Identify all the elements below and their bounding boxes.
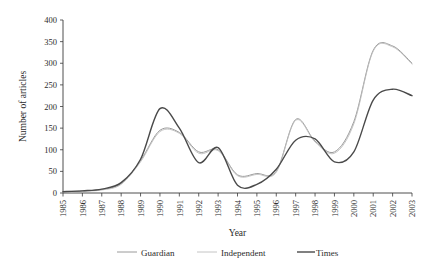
x-tick-label: 1988 bbox=[116, 200, 126, 217]
y-tick-label: 0 bbox=[53, 188, 57, 198]
y-tick-label: 300 bbox=[44, 58, 57, 68]
x-tick-label: 1997 bbox=[291, 200, 301, 217]
series-line-independent bbox=[63, 43, 412, 192]
y-tick-label: 150 bbox=[44, 123, 57, 133]
x-tick-label: 2002 bbox=[388, 200, 398, 217]
y-tick-label: 250 bbox=[44, 80, 57, 90]
y-tick-label: 50 bbox=[49, 166, 58, 176]
x-tick-label: 1993 bbox=[213, 200, 223, 217]
x-tick-label: 1990 bbox=[155, 200, 165, 217]
x-tick-label: 2003 bbox=[407, 200, 417, 217]
y-tick-label: 200 bbox=[44, 102, 57, 112]
chart-legend: GuardianIndependentTimes bbox=[117, 248, 339, 258]
legend-label-guardian: Guardian bbox=[141, 248, 175, 258]
x-tick-label: 1986 bbox=[78, 200, 88, 217]
y-axis: 050100150200250300350400 bbox=[44, 15, 63, 198]
series-line-guardian bbox=[63, 43, 412, 192]
x-tick-label: 1999 bbox=[330, 200, 340, 217]
x-axis: 1985198619871988198919901991199219931994… bbox=[58, 193, 417, 217]
y-tick-label: 100 bbox=[44, 145, 57, 155]
x-tick-label: 1985 bbox=[58, 200, 68, 217]
line-chart: 050100150200250300350400 198519861987198… bbox=[0, 0, 428, 273]
legend-label-times: Times bbox=[316, 248, 339, 258]
chart-figure: 050100150200250300350400 198519861987198… bbox=[0, 0, 428, 273]
series-lines bbox=[63, 43, 412, 193]
x-tick-label: 1994 bbox=[233, 199, 243, 217]
x-tick-label: 1991 bbox=[175, 200, 185, 217]
x-tick-label: 2000 bbox=[349, 200, 359, 217]
legend-label-independent: Independent bbox=[221, 248, 266, 258]
x-tick-label: 1995 bbox=[252, 200, 262, 217]
y-tick-label: 400 bbox=[44, 15, 57, 25]
x-tick-label: 1987 bbox=[97, 200, 107, 217]
x-tick-label: 1992 bbox=[194, 200, 204, 217]
x-tick-label: 2001 bbox=[368, 200, 378, 217]
y-axis-title: Number of articles bbox=[18, 71, 28, 143]
x-tick-label: 1989 bbox=[136, 200, 146, 217]
x-tick-label: 1998 bbox=[310, 200, 320, 217]
y-tick-label: 350 bbox=[44, 37, 57, 47]
x-tick-label: 1996 bbox=[271, 200, 281, 217]
x-axis-title: Year bbox=[229, 228, 247, 238]
